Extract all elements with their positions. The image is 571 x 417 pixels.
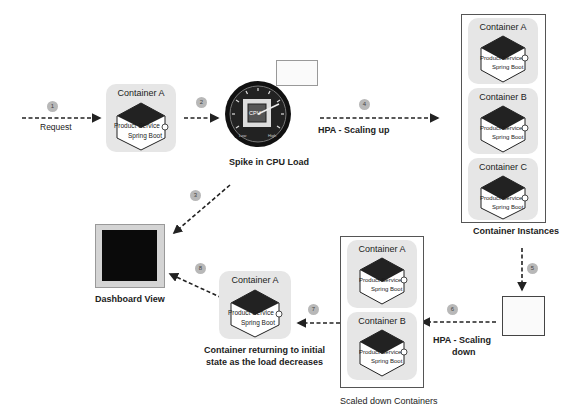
step-badge-4: 4 <box>359 99 370 110</box>
step-badge-5: 5 <box>527 263 538 274</box>
hpa-scaling-down-label-line2: down <box>452 347 476 357</box>
service-framework: Spring Boot <box>371 358 402 364</box>
container-returned: Container A Product Service Spring Boot <box>219 271 291 339</box>
returning-label-line1: Container returning to initial <box>204 345 325 355</box>
scaled-down-group: Container A Product Service Spring Boot … <box>340 236 424 388</box>
scaled-down-label: Scaled down Containers <box>340 396 438 406</box>
scaled-container-a: Container A Product Service Spring Boot <box>347 240 417 308</box>
step-badge-1: 1 <box>47 101 58 112</box>
cube-icon <box>106 84 176 152</box>
service-name: Product Service <box>480 55 522 61</box>
service-name: Product Service <box>359 349 401 355</box>
cpu-chip-label: CPU <box>249 110 261 116</box>
step-badge-2: 2 <box>196 97 207 108</box>
hpa-scaling-up-label: HPA - Scaling up <box>318 125 390 135</box>
container-instance-b: Container B Product Service Spring Boot <box>468 88 538 154</box>
service-framework: Spring Boot <box>492 134 523 140</box>
cube-icon <box>468 88 538 154</box>
service-framework: Spring Boot <box>492 204 523 210</box>
service-framework: Spring Boot <box>492 64 523 70</box>
hpa-scaling-down-label-line1: HPA - Scaling <box>433 335 491 345</box>
step-badge-7: 7 <box>308 304 319 315</box>
service-name: Product Service <box>480 195 522 201</box>
step-badge-3: 3 <box>190 190 201 201</box>
container-instances-group: Container A Product Service Spring Boot … <box>461 14 546 223</box>
step-badge-8: 8 <box>195 263 206 274</box>
dashboard-screen <box>102 230 157 281</box>
cube-icon <box>468 18 538 84</box>
cpu-gauge: CPU Low High <box>224 80 292 148</box>
metrics-thumbnail <box>276 60 318 86</box>
scaled-container-b: Container B Product Service Spring Boot <box>347 312 417 380</box>
service-framework: Spring Boot <box>128 132 162 139</box>
step-badge-6: 6 <box>447 304 458 315</box>
arrow-to-dashboard <box>174 185 230 233</box>
container-instance-a: Container A Product Service Spring Boot <box>468 18 538 84</box>
container-initial: Container A Product Service Spring Boot <box>106 84 176 152</box>
gauge-high-label: High <box>268 133 276 138</box>
cube-icon <box>219 271 291 339</box>
dashboard-view <box>95 224 165 288</box>
cube-icon <box>347 312 417 380</box>
service-name: Product Service <box>359 277 401 283</box>
returning-label-line2: state as the load decreases <box>206 357 323 367</box>
cube-icon <box>468 158 538 220</box>
container-instance-c: Container C Product Service Spring Boot <box>468 158 538 220</box>
request-label: Request <box>40 122 72 132</box>
service-name: Product Service <box>228 309 274 316</box>
dashboard-label: Dashboard View <box>95 294 165 304</box>
container-instances-label: Container Instances <box>473 226 559 236</box>
gauge-low-label: Low <box>239 133 246 138</box>
spike-label: Spike in CPU Load <box>229 157 309 167</box>
service-name: Product Service <box>114 122 160 129</box>
metrics-chart-thumbnail <box>502 296 545 336</box>
cube-icon <box>347 240 417 308</box>
service-framework: Spring Boot <box>371 286 402 292</box>
service-name: Product Service <box>480 125 522 131</box>
arrow-back-to-dashboard <box>170 274 222 298</box>
service-framework: Spring Boot <box>241 319 275 326</box>
